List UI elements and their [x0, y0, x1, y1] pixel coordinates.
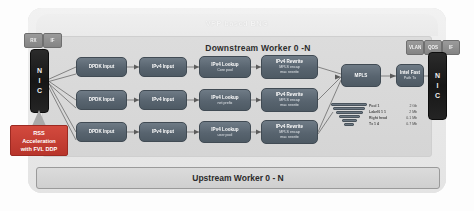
tab-vlan-label: VLAN [409, 45, 421, 50]
downstream-worker-title: Downstream Worker 0 -N [153, 43, 363, 53]
diagram-canvas: VPP based BNG Downstream Worker 0 -N [0, 0, 474, 211]
node-ipv4-lookup-1[interactable]: IPv4 Lookup Core pool [199, 56, 251, 78]
nic-left-letter-n: N [37, 66, 42, 76]
node-label: IPv4 Input [152, 129, 174, 135]
page-title: VPP based BNG [36, 19, 438, 28]
node-ipv4-lookup-3[interactable]: IPv4 Lookup user pool [199, 121, 251, 143]
node-ipv4-rewrite-2[interactable]: IPv4 Rewrite MPLS encap mac rewrite [261, 88, 318, 112]
node-intel-fast-path[interactable]: Intel Fast Path Tx [396, 64, 424, 87]
tab-rx-label: RX [30, 38, 36, 43]
stats-row: Tx 1 4 0.7 Mb [369, 121, 417, 127]
node-ipv4-rewrite-1[interactable]: IPv4 Rewrite MPLS encap mac rewrite [261, 55, 318, 79]
rss-line-3: with FVL DDP [21, 145, 58, 153]
nic-right[interactable]: N I C [428, 52, 447, 120]
node-dpdk-input-1[interactable]: DPDK Input [76, 57, 127, 77]
stats-table: Pool 1 2 Gb Label0 1 1 2 Mb Right head 0… [369, 103, 417, 127]
nic-left[interactable]: N I C [30, 49, 49, 113]
node-ipv4-input-3[interactable]: IPv4 Input [139, 122, 187, 142]
node-sublabel: net prefix [218, 101, 233, 106]
title-band: VPP based BNG [36, 14, 438, 36]
nic-right-letter-n: N [435, 71, 440, 81]
rss-arrow-icon [32, 110, 46, 126]
nic-left-letter-i: I [39, 76, 41, 86]
node-sublabel-2: mac rewrite [280, 103, 299, 108]
node-sublabel: Path Tx [404, 76, 416, 81]
node-dpdk-input-3[interactable]: DPDK Input [76, 122, 127, 142]
tab-if-right-label: IF [449, 45, 453, 50]
rss-line-1: RSS [21, 129, 58, 137]
node-sublabel: Core pool [217, 68, 233, 73]
tab-vlan[interactable]: VLAN [406, 40, 424, 55]
nic-right-letter-c: C [435, 91, 440, 101]
node-label: DPDK Input [89, 129, 115, 135]
upstream-worker-bar: Upstream Worker 0 - N [36, 167, 440, 189]
stats-value: 0.7 Mb [406, 121, 417, 127]
node-dpdk-input-2[interactable]: DPDK Input [76, 90, 127, 110]
node-ipv4-lookup-2[interactable]: IPv4 Lookup net prefix [199, 89, 251, 111]
nic-right-letter-i: I [437, 81, 439, 91]
node-label: DPDK Input [89, 64, 115, 70]
funnel-graphic-icon [331, 103, 367, 131]
nic-left-letter-c: C [37, 86, 42, 96]
node-ipv4-rewrite-3[interactable]: IPv4 Rewrite MPLS encap mac rewrite [261, 120, 318, 144]
node-label: DPDK Input [89, 97, 115, 103]
stats-key: Tx 1 4 [369, 121, 379, 127]
node-ipv4-input-1[interactable]: IPv4 Input [139, 57, 187, 77]
node-sublabel-2: mac rewrite [280, 135, 299, 140]
node-sublabel: user pool [218, 133, 233, 138]
tab-rx[interactable]: RX [24, 33, 43, 48]
node-mpls[interactable]: MPLS [341, 64, 381, 87]
rss-line-2: Acceleration [21, 137, 58, 145]
node-sublabel-2: mac rewrite [280, 70, 299, 75]
node-label: IPv4 Input [152, 64, 174, 70]
rss-acceleration-box: RSS Acceleration with FVL DDP [10, 125, 68, 156]
node-label: IPv4 Input [152, 97, 174, 103]
tab-if-left[interactable]: IF [43, 33, 62, 48]
tab-if-left-label: IF [51, 38, 55, 43]
node-ipv4-input-2[interactable]: IPv4 Input [139, 90, 187, 110]
upstream-worker-title: Upstream Worker 0 - N [37, 173, 439, 183]
tab-qos-label: QOS [428, 45, 438, 50]
node-label: MPLS [355, 73, 368, 79]
